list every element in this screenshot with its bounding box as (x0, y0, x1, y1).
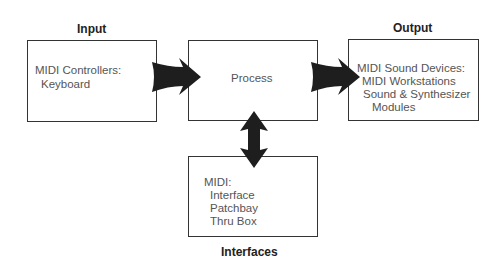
arrow-process-interfaces-double-icon (240, 111, 268, 168)
arrows-layer (0, 0, 498, 266)
arrow-input-to-process-icon (152, 58, 201, 95)
arrow-process-to-output-icon (311, 58, 360, 95)
